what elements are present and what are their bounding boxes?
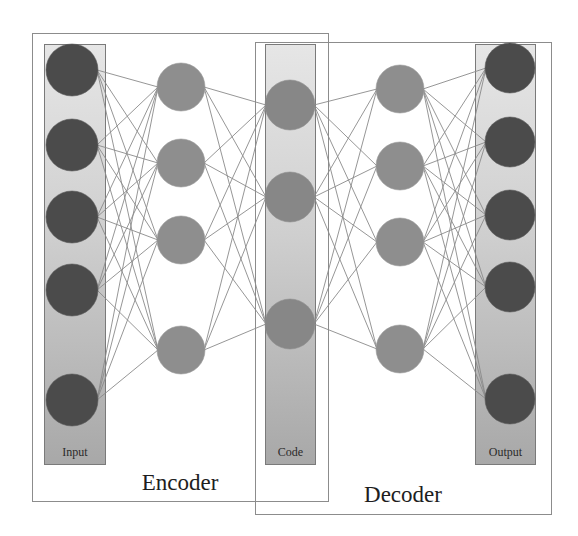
edge-encoder_hidden-2-to-code-1 bbox=[204, 105, 266, 163]
output-node-2 bbox=[485, 117, 535, 167]
edge-input-5-to-encoder_hidden-1 bbox=[97, 87, 158, 400]
edge-code-3-to-decoder_hidden-1 bbox=[314, 89, 377, 324]
input-label: Input bbox=[62, 445, 88, 459]
edge-input-2-to-encoder_hidden-2 bbox=[97, 145, 158, 163]
edge-code-1-to-decoder_hidden-1 bbox=[314, 89, 377, 105]
encoder-label: Encoder bbox=[142, 470, 219, 495]
input-node-3 bbox=[46, 191, 98, 243]
encoder-hidden-node-2 bbox=[157, 139, 205, 187]
encoder-hidden-node-4 bbox=[157, 326, 205, 374]
edge-encoder_hidden-2-to-code-3 bbox=[204, 163, 266, 324]
edge-input-1-to-encoder_hidden-4 bbox=[97, 70, 158, 350]
edge-code-3-to-decoder_hidden-2 bbox=[314, 166, 377, 324]
autoencoder-diagram: Input Code Output Encoder Decoder bbox=[0, 0, 578, 536]
input-node-4 bbox=[46, 264, 98, 316]
code-node-3 bbox=[265, 299, 315, 349]
decoder-label: Decoder bbox=[364, 482, 442, 507]
output-node-4 bbox=[485, 262, 535, 312]
encoder-hidden-node-1 bbox=[157, 63, 205, 111]
decoder-hidden-node-2 bbox=[376, 142, 424, 190]
edge-encoder_hidden-3-to-code-3 bbox=[204, 240, 266, 324]
decoder-hidden-node-4 bbox=[376, 325, 424, 373]
code-label: Code bbox=[278, 445, 303, 459]
output-label: Output bbox=[489, 445, 523, 459]
edge-encoder_hidden-1-to-code-1 bbox=[204, 87, 266, 105]
output-node-5 bbox=[485, 374, 535, 424]
edge-input-4-to-encoder_hidden-1 bbox=[97, 87, 158, 290]
input-node-1 bbox=[46, 44, 98, 96]
output-node-1 bbox=[485, 43, 535, 93]
code-node-2 bbox=[265, 172, 315, 222]
code-node-1 bbox=[265, 80, 315, 130]
edge-code-1-to-decoder_hidden-2 bbox=[314, 105, 377, 166]
decoder-hidden-node-1 bbox=[376, 65, 424, 113]
edge-code-3-to-decoder_hidden-4 bbox=[314, 324, 377, 349]
encoder-hidden-node-3 bbox=[157, 216, 205, 264]
edge-encoder_hidden-1-to-code-3 bbox=[204, 87, 266, 324]
output-node-3 bbox=[485, 190, 535, 240]
input-node-5 bbox=[46, 374, 98, 426]
decoder-hidden-node-3 bbox=[376, 218, 424, 266]
edge-encoder_hidden-3-to-code-2 bbox=[204, 197, 266, 240]
input-node-2 bbox=[46, 119, 98, 171]
